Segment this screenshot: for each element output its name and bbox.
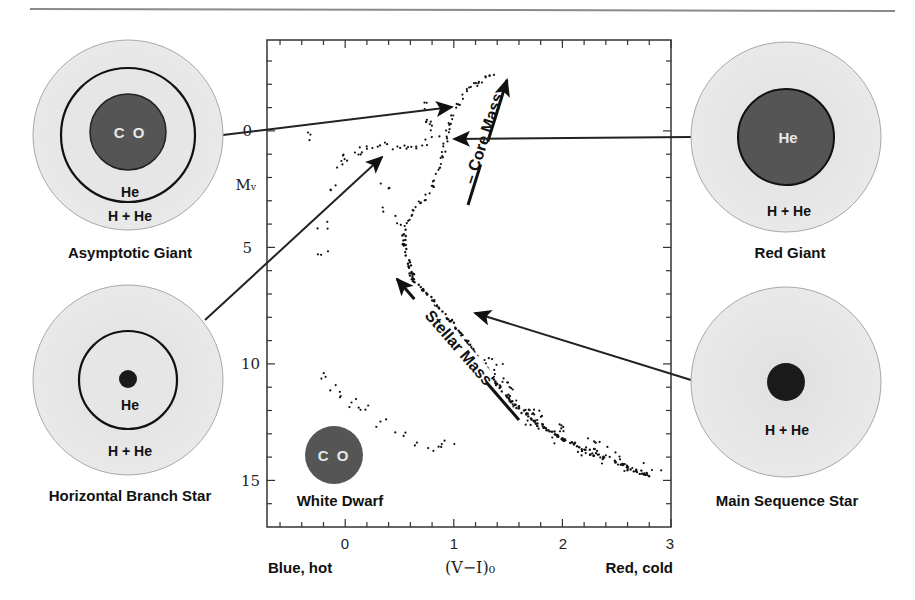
agb-name: Asymptotic Giant [68, 244, 192, 261]
x-tick-0: 0 [341, 535, 349, 552]
x-tick-1: 1 [450, 535, 458, 552]
ms-core [767, 363, 805, 401]
main-sequence-diagram: H + He Main Sequence Star [691, 287, 881, 509]
y-tick-15: 15 [241, 472, 260, 490]
red-giant-diagram: He H + He Red Giant [691, 42, 881, 261]
ms-envelope-label: H + He [765, 422, 809, 438]
white-dwarf-name: White Dwarf [297, 492, 385, 509]
top-rule [30, 9, 895, 11]
y-axis-label: Mᵥ [236, 176, 257, 194]
hb-name: Horizontal Branch Star [49, 487, 212, 504]
rg-core-label: He [778, 129, 797, 146]
hb-envelope-label: H + He [108, 443, 152, 459]
agb-core-label: C O [114, 124, 147, 141]
rg-envelope-label: H + He [767, 203, 811, 219]
hb-shell-label: He [121, 397, 139, 413]
y-tick-5: 5 [242, 239, 252, 257]
cmd-figure: 0 5 10 15 Mᵥ 0 1 2 3 Blue, hot (V−I)₀ Re… [0, 0, 915, 600]
agb-envelope-label: H + He [108, 208, 152, 224]
x-axis-label: (V−I)₀ [445, 558, 495, 577]
x-right-label: Red, cold [605, 559, 673, 576]
white-dwarf-core-label: C O [318, 447, 351, 464]
x-left-label: Blue, hot [268, 559, 332, 576]
x-tick-2: 2 [559, 535, 567, 552]
x-tick-3: 3 [666, 535, 674, 552]
plot-area: 0 5 10 15 Mᵥ 0 1 2 3 Blue, hot (V−I)₀ Re… [236, 40, 675, 577]
agb-shell-label: He [121, 184, 139, 200]
ms-name: Main Sequence Star [716, 492, 859, 509]
hb-core [119, 370, 137, 388]
rg-name: Red Giant [755, 244, 826, 261]
y-tick-10: 10 [241, 355, 260, 373]
asymptotic-giant-diagram: C O He H + He Asymptotic Giant [33, 40, 223, 261]
horizontal-branch-diagram: He H + He Horizontal Branch Star [33, 285, 223, 504]
